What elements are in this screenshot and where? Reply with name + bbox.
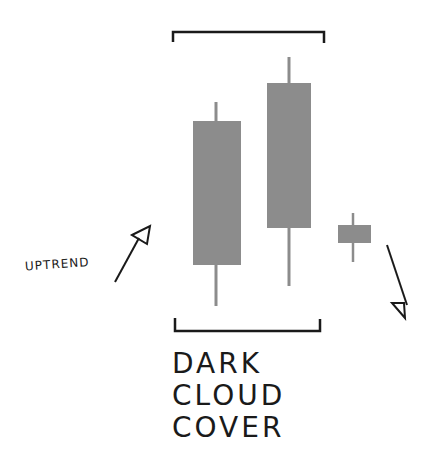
- uptrend-arrow-icon: [115, 226, 150, 282]
- dark-cloud-cover-diagram: UPTREND DARK CLOUD COVER: [0, 0, 443, 464]
- title-line-1: DARK: [172, 347, 262, 380]
- title-line-3: COVER: [172, 411, 284, 444]
- downtrend-arrow-icon: [387, 245, 407, 318]
- title-line-2: CLOUD: [172, 379, 285, 412]
- top-bracket: [173, 32, 324, 43]
- small-candle: [338, 213, 371, 262]
- bullish-candle: [193, 102, 241, 306]
- uptrend-label: UPTREND: [25, 255, 90, 273]
- bottom-bracket: [175, 318, 320, 331]
- bearish-candle: [267, 57, 311, 286]
